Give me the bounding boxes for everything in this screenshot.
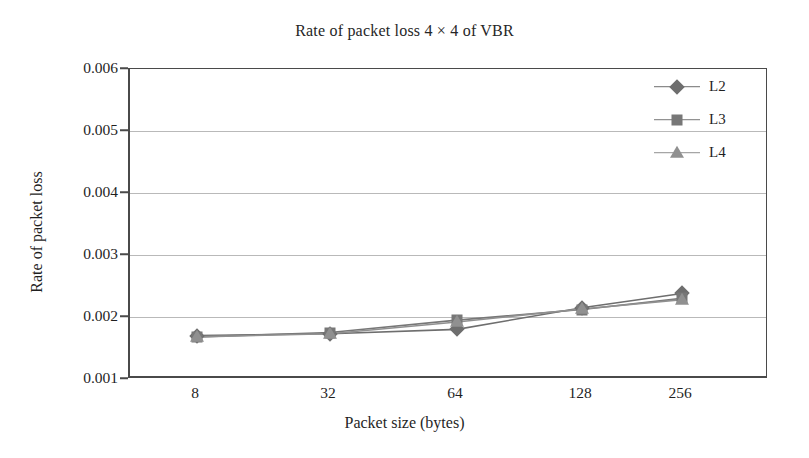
y-tick-mark: [120, 191, 128, 193]
y-tick-mark: [120, 253, 128, 255]
legend-marker-diamond-icon: [654, 79, 700, 95]
data-point-l4-128: [575, 302, 589, 314]
y-tick-label: 0.004: [40, 183, 118, 201]
legend-item-l4[interactable]: L4: [654, 136, 759, 169]
y-tick-label: 0.001: [40, 369, 118, 387]
legend-label: L4: [709, 144, 726, 161]
x-tick-label: 128: [545, 384, 615, 402]
chart-title: Rate of packet loss 4 × 4 of VBR: [0, 22, 809, 40]
legend-item-l3[interactable]: L3: [654, 103, 759, 136]
legend-marker-square-icon: [654, 112, 700, 128]
y-tick-mark: [120, 377, 128, 379]
y-tick-mark: [120, 315, 128, 317]
y-tick-label: 0.005: [40, 121, 118, 139]
series-line-l2: [197, 293, 682, 335]
x-tick-label: 32: [293, 384, 363, 402]
y-tick-mark: [120, 129, 128, 131]
y-tick-mark: [120, 67, 128, 69]
legend: L2L3L4: [654, 70, 759, 169]
legend-label: L3: [709, 111, 726, 128]
legend-item-l2[interactable]: L2: [654, 70, 759, 103]
series-line-l4: [197, 300, 682, 337]
data-point-l4-8: [190, 330, 204, 342]
legend-marker-triangle-icon: [654, 145, 700, 161]
y-tick-label: 0.006: [40, 59, 118, 77]
y-tick-label: 0.002: [40, 307, 118, 325]
data-point-l4-32: [323, 327, 337, 339]
x-tick-label: 64: [420, 384, 490, 402]
x-axis-label: Packet size (bytes): [0, 414, 809, 432]
x-tick-label: 8: [160, 384, 230, 402]
data-point-l4-64: [450, 315, 464, 327]
data-point-l4-256: [675, 292, 689, 304]
y-tick-label: 0.003: [40, 245, 118, 263]
chart-figure: Rate of packet loss 4 × 4 of VBR Rate of…: [0, 0, 809, 458]
x-tick-label: 256: [645, 384, 715, 402]
legend-label: L2: [709, 78, 726, 95]
